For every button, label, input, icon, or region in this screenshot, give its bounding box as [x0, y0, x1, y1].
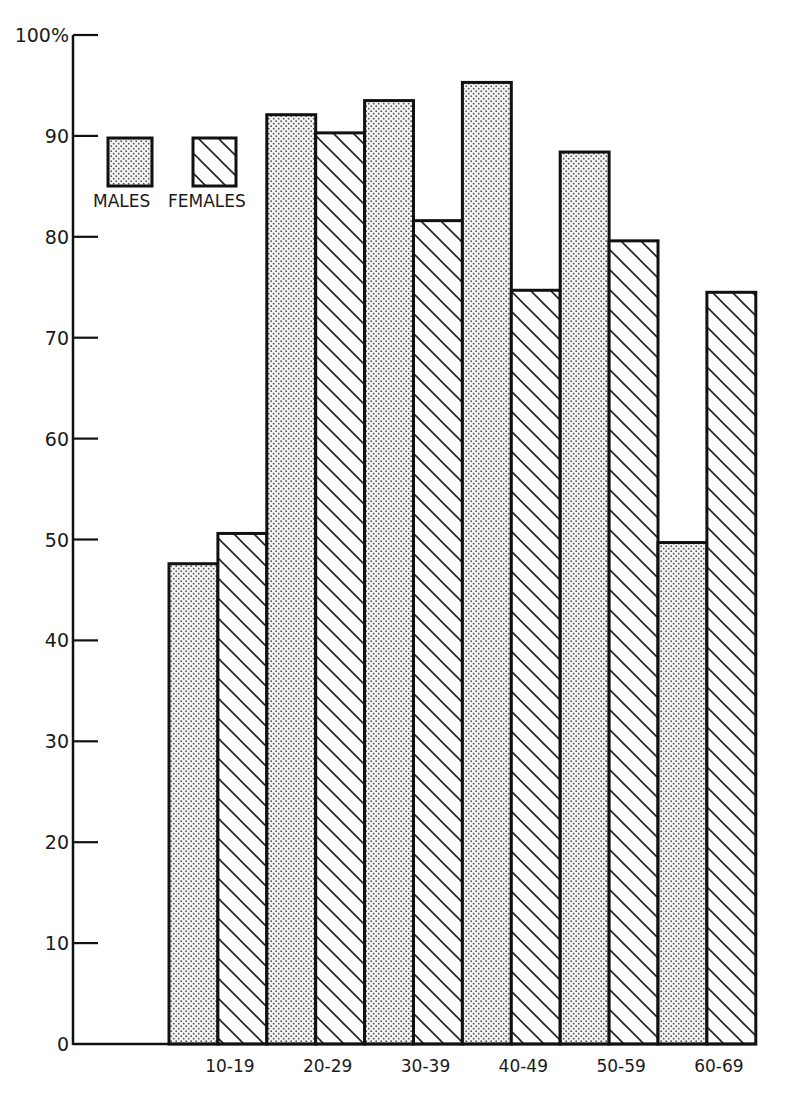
- y-tick-label: 10: [45, 932, 69, 954]
- y-tick-label: 90: [45, 125, 69, 147]
- bar-males-10-19: [169, 564, 218, 1044]
- y-tick-label: 50: [45, 529, 69, 551]
- bar-chart: 0102030405060708090100% 10-1920-2930-394…: [0, 0, 785, 1093]
- legend-label-males: MALES: [93, 191, 150, 211]
- x-category-label: 50-59: [596, 1056, 645, 1076]
- y-tick-label: 30: [45, 730, 69, 752]
- y-tick-label: 80: [45, 226, 69, 248]
- y-tick-label: 20: [45, 831, 69, 853]
- bar-males-30-39: [365, 101, 414, 1044]
- x-category-label: 10-19: [205, 1056, 254, 1076]
- bar-females-20-29: [316, 133, 365, 1044]
- legend-swatch-females: [193, 138, 236, 186]
- y-tick-label: 0: [57, 1033, 69, 1055]
- legend-label-females: FEMALES: [168, 191, 246, 211]
- y-tick-label: 100%: [15, 24, 69, 46]
- x-category-label: 60-69: [694, 1056, 743, 1076]
- bars-group: [169, 82, 756, 1044]
- bar-females-50-59: [609, 241, 658, 1044]
- x-category-label: 30-39: [401, 1056, 450, 1076]
- legend-swatch-males: [108, 138, 152, 186]
- bar-males-60-69: [658, 543, 707, 1044]
- bar-males-40-49: [462, 82, 511, 1044]
- bar-males-50-59: [560, 152, 609, 1044]
- x-category-label: 40-49: [499, 1056, 548, 1076]
- y-tick-label: 60: [45, 428, 69, 450]
- x-axis: 10-1920-2930-3940-4950-5960-69: [73, 1044, 757, 1076]
- bar-females-30-39: [414, 221, 463, 1044]
- bar-males-20-29: [267, 115, 316, 1044]
- bar-females-40-49: [511, 290, 560, 1044]
- bar-females-10-19: [218, 533, 267, 1044]
- y-tick-label: 40: [45, 629, 69, 651]
- bar-females-60-69: [707, 292, 756, 1044]
- legend: MALES FEMALES: [93, 138, 246, 211]
- y-tick-label: 70: [45, 327, 69, 349]
- x-category-label: 20-29: [303, 1056, 352, 1076]
- y-axis: 0102030405060708090100%: [15, 24, 98, 1055]
